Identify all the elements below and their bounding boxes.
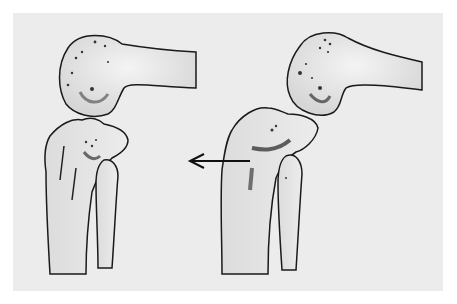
left-humerus — [60, 36, 197, 117]
right-forearm-bones — [221, 108, 318, 274]
right-humerus — [287, 33, 422, 115]
illustration-panel — [13, 13, 443, 291]
elbow-illustration — [13, 13, 443, 291]
